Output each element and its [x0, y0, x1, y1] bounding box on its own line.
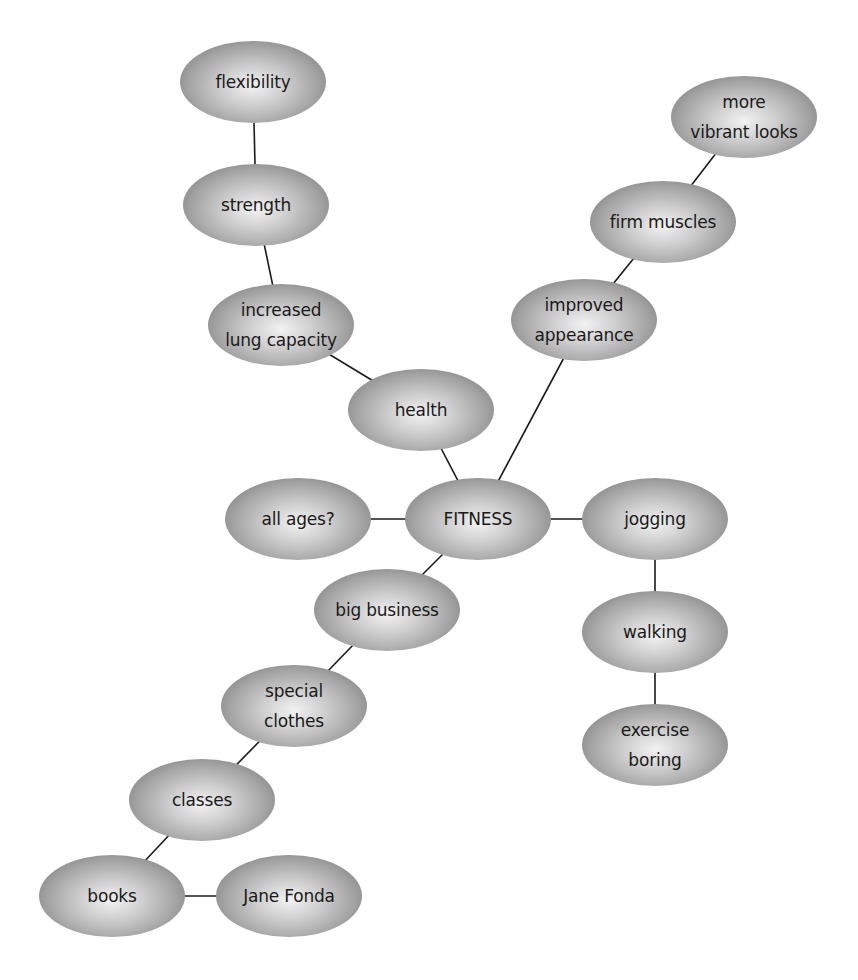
node-label: more vibrant looks — [690, 87, 797, 147]
node-firm-muscles: firm muscles — [590, 181, 736, 263]
node-walking: walking — [582, 591, 728, 673]
node-books: books — [39, 855, 185, 937]
node-label: strength — [221, 190, 291, 220]
node-label: Jane Fonda — [243, 881, 335, 911]
node-fitness-central: FITNESS — [405, 478, 551, 560]
mind-map-canvas: flexibility strength increased lung capa… — [0, 0, 858, 980]
node-label: flexibility — [215, 67, 290, 97]
node-increased-lung-capacity: increased lung capacity — [208, 284, 354, 366]
node-label: jogging — [624, 504, 686, 534]
node-exercise-boring: exercise boring — [582, 704, 728, 786]
node-strength: strength — [183, 164, 329, 246]
node-label: firm muscles — [610, 207, 717, 237]
node-label: FITNESS — [444, 504, 513, 534]
node-big-business: big business — [314, 569, 460, 651]
node-classes: classes — [129, 759, 275, 841]
node-more-vibrant-looks: more vibrant looks — [671, 76, 817, 158]
node-label: big business — [335, 595, 438, 625]
node-label: exercise boring — [621, 715, 690, 775]
node-jane-fonda: Jane Fonda — [216, 855, 362, 937]
node-improved-appearance: improved appearance — [511, 279, 657, 361]
node-label: all ages? — [261, 504, 334, 534]
node-special-clothes: special clothes — [221, 665, 367, 747]
node-flexibility: flexibility — [180, 41, 326, 123]
node-label: increased lung capacity — [225, 295, 337, 355]
node-label: health — [395, 395, 448, 425]
node-label: walking — [623, 617, 687, 647]
node-label: special clothes — [264, 676, 324, 736]
node-label: books — [87, 881, 136, 911]
node-all-ages: all ages? — [225, 478, 371, 560]
node-health: health — [348, 369, 494, 451]
node-label: improved appearance — [535, 290, 634, 350]
node-label: classes — [172, 785, 232, 815]
node-jogging: jogging — [582, 478, 728, 560]
